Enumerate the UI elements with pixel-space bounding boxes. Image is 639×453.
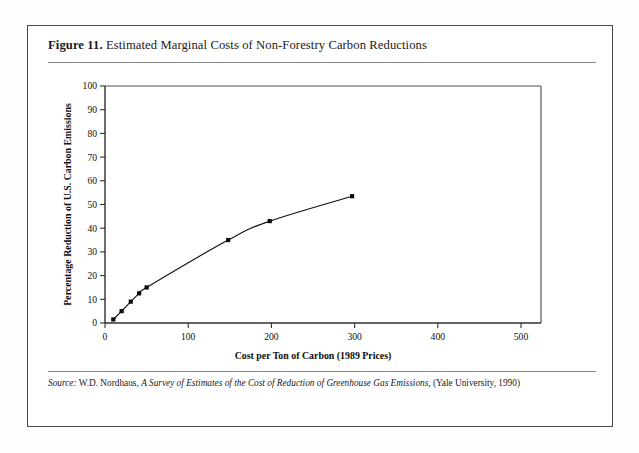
y-tick-label: 20 [87,270,97,281]
chart-plot-area: 01020304050607080901000100200300400500Co… [28,26,614,428]
x-tick-label: 0 [103,331,108,342]
data-point-marker [226,238,230,242]
source-author: W.D. Nordhaus, [79,378,139,388]
y-tick-label: 90 [87,104,97,115]
source-note: Source: W.D. Nordhaus, A Survey of Estim… [48,378,604,388]
y-tick-label: 40 [87,223,97,234]
x-tick-label: 400 [431,331,446,342]
y-tick-label: 80 [87,128,97,139]
y-tick-label: 0 [92,317,97,328]
x-tick-label: 100 [181,331,196,342]
source-divider [48,371,596,372]
data-point-marker [350,194,354,198]
y-axis-title: Percentage Reduction of U.S. Carbon Emis… [62,103,73,306]
y-tick-label: 10 [87,294,97,305]
y-tick-label: 30 [87,246,97,257]
data-point-marker [268,219,272,223]
data-point-marker [137,291,141,295]
x-tick-label: 500 [514,331,529,342]
chart-svg: 01020304050607080901000100200300400500Co… [28,26,614,428]
x-tick-label: 300 [347,331,362,342]
x-axis-title: Cost per Ton of Carbon (1989 Prices) [235,350,392,362]
data-point-marker [145,285,149,289]
data-point-marker [129,300,133,304]
source-prefix: Source: [48,378,77,388]
figure-frame: Figure 11. Estimated Marginal Costs of N… [27,25,613,427]
source-title: A Survey of Estimates of the Cost of Red… [141,378,430,388]
source-publisher: (Yale University, 1990) [433,378,520,388]
data-series-line [113,196,352,319]
x-tick-label: 200 [264,331,279,342]
figure-page: Figure 11. Estimated Marginal Costs of N… [0,0,639,453]
y-tick-label: 100 [83,80,98,91]
y-tick-label: 50 [87,199,97,210]
y-tick-label: 70 [87,152,97,163]
data-point-marker [120,309,124,313]
data-point-marker [111,317,115,321]
y-tick-label: 60 [87,175,97,186]
